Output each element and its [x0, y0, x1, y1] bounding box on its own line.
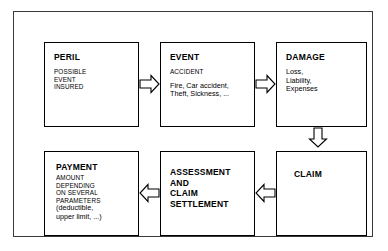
- arrow-down-damage-to-claim: [308, 127, 328, 148]
- node-event-content: EVENT ACCIDENT Fire, Car accident, Theft…: [170, 52, 249, 99]
- arrow-left-claim-to-assessment: [255, 183, 276, 203]
- node-claim: CLAIM: [276, 151, 367, 236]
- node-event: EVENT ACCIDENT Fire, Car accident, Theft…: [160, 42, 255, 127]
- node-event-line-2: Theft, Sickness, ...: [170, 90, 249, 99]
- node-payment-line-2: upper limit, ...): [56, 213, 133, 222]
- node-claim-title: CLAIM: [294, 169, 361, 179]
- node-peril-line-1: POSSIBLE: [54, 68, 133, 76]
- diagram-frame: PERIL POSSIBLE EVENT INSURED EVENT ACCID…: [13, 11, 373, 237]
- node-damage-title: DAMAGE: [286, 52, 361, 62]
- node-payment-content: PAYMENT AMOUNT DEPENDING ON SEVERAL PARA…: [56, 162, 133, 222]
- node-peril-title: PERIL: [54, 52, 133, 62]
- node-assessment-title-line-4: SETTLEMENT: [170, 199, 249, 210]
- node-assessment-title-line-2: AND: [170, 178, 249, 189]
- node-damage-content: DAMAGE Loss, Liability, Expenses: [286, 52, 361, 94]
- arrow-right-event-to-damage: [255, 74, 276, 94]
- node-assessment-title-line-1: ASSESSMENT: [170, 167, 249, 178]
- node-assessment: ASSESSMENT AND CLAIM SETTLEMENT: [160, 151, 255, 236]
- node-assessment-content: ASSESSMENT AND CLAIM SETTLEMENT: [170, 167, 249, 209]
- node-peril-line-3: INSURED: [54, 83, 133, 91]
- node-payment-title: PAYMENT: [56, 162, 133, 172]
- arrow-right-peril-to-event: [139, 74, 160, 94]
- node-claim-content: CLAIM: [294, 169, 361, 179]
- node-peril: PERIL POSSIBLE EVENT INSURED: [44, 42, 139, 127]
- node-peril-content: PERIL POSSIBLE EVENT INSURED: [54, 52, 133, 91]
- node-damage-line-3: Expenses: [286, 85, 361, 94]
- node-payment-caps-1: AMOUNT: [56, 174, 133, 182]
- node-peril-line-2: EVENT: [54, 76, 133, 84]
- node-event-subtitle: ACCIDENT: [170, 68, 249, 76]
- node-damage: DAMAGE Loss, Liability, Expenses: [276, 42, 367, 127]
- arrow-left-assessment-to-payment: [139, 183, 160, 203]
- node-payment: PAYMENT AMOUNT DEPENDING ON SEVERAL PARA…: [44, 151, 139, 236]
- node-assessment-title-line-3: CLAIM: [170, 188, 249, 199]
- node-payment-caps-2: DEPENDING: [56, 182, 133, 190]
- node-event-title: EVENT: [170, 52, 249, 62]
- node-payment-caps-3: ON SEVERAL: [56, 189, 133, 197]
